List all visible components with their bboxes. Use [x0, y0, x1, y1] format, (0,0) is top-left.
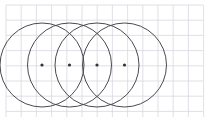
center-dot-3 — [95, 63, 98, 66]
center-dot-4 — [123, 63, 126, 66]
circles-diagram — [0, 0, 209, 122]
figure-container — [0, 0, 209, 122]
center-dot-2 — [68, 63, 71, 66]
figure-background — [0, 0, 209, 122]
center-dot-1 — [40, 63, 43, 66]
